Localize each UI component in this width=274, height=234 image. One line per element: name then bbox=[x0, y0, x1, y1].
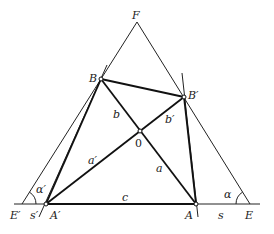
segment-A-prime-B bbox=[46, 79, 101, 204]
segment-B-prime-A bbox=[184, 97, 196, 204]
point-B bbox=[99, 77, 103, 81]
label-B-prime: B′ bbox=[187, 89, 199, 102]
label-s-prime: s′ bbox=[30, 209, 39, 222]
point-B-prime bbox=[182, 95, 186, 99]
point-A bbox=[194, 202, 198, 206]
alpha-arc bbox=[236, 192, 243, 204]
label-s: s bbox=[218, 209, 224, 222]
label-a-prime: a′ bbox=[88, 154, 98, 167]
label-c: c bbox=[122, 191, 128, 204]
label-a: a bbox=[156, 162, 163, 175]
point-O bbox=[138, 129, 142, 133]
label-E: E bbox=[244, 209, 253, 222]
label-alpha-prime: α′ bbox=[36, 183, 46, 196]
label-O: 0 bbox=[135, 137, 142, 150]
label-B: B bbox=[88, 72, 97, 85]
label-b-prime: b′ bbox=[165, 113, 175, 126]
angle-arcs bbox=[30, 192, 243, 204]
thick-lines bbox=[46, 79, 196, 204]
geometry-diagram: F B B′ 0 A′ A E′ E b b′ a′ a c s s′ α α′ bbox=[0, 0, 274, 234]
label-b: b bbox=[113, 108, 120, 121]
label-A: A bbox=[184, 209, 193, 222]
label-A-prime: A′ bbox=[49, 209, 61, 222]
label-alpha: α bbox=[224, 188, 232, 201]
label-F: F bbox=[131, 9, 140, 22]
label-E-prime: E′ bbox=[9, 209, 21, 222]
point-A-prime bbox=[44, 202, 48, 206]
